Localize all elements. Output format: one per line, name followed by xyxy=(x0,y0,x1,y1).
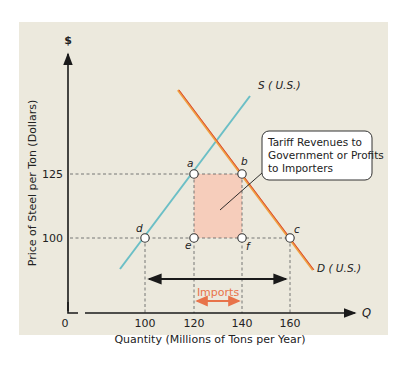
point-f xyxy=(238,234,246,242)
chart: Imports Tariff Revenues to Government or… xyxy=(0,0,400,374)
label-b: b xyxy=(241,155,248,167)
axis-break-corner xyxy=(68,302,78,313)
point-c xyxy=(286,234,294,242)
tariff-revenue-area xyxy=(194,174,242,238)
point-d xyxy=(141,234,149,242)
y-axis-symbol: $ xyxy=(64,34,72,47)
demand-label: D ( U.S.) xyxy=(317,262,361,274)
y-tick-100: 100 xyxy=(42,232,63,245)
x-tick-120: 120 xyxy=(184,317,205,330)
label-f: f xyxy=(246,240,252,252)
x-axis-symbol: Q xyxy=(362,306,371,320)
imports-label: Imports xyxy=(197,286,240,299)
label-c: c xyxy=(294,223,300,235)
x-tick-140: 140 xyxy=(232,317,253,330)
origin-label: 0 xyxy=(62,317,69,330)
supply-label: S ( U.S.) xyxy=(258,79,301,91)
x-tick-160: 160 xyxy=(280,317,301,330)
y-tick-125: 125 xyxy=(42,168,63,181)
point-a xyxy=(190,170,198,178)
label-e: e xyxy=(185,239,191,251)
x-axis-title: Quantity (Millions of Tons per Year) xyxy=(114,333,305,346)
label-a: a xyxy=(187,157,193,169)
y-axis-title: Price of Steel per Ton (Dollars) xyxy=(26,100,39,267)
label-d: d xyxy=(136,222,143,234)
x-tick-100: 100 xyxy=(135,317,156,330)
point-b xyxy=(238,170,246,178)
